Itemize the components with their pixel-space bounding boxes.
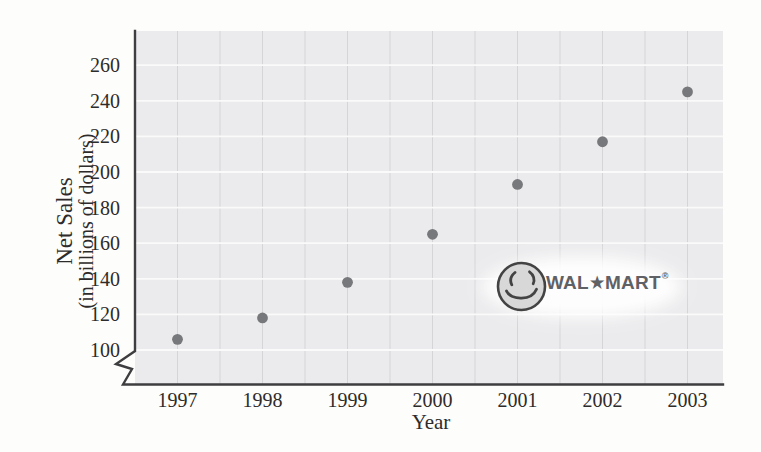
data-point-1997	[172, 334, 183, 345]
data-point-2001	[512, 179, 523, 190]
data-point-1999	[342, 277, 353, 288]
y-tick-label-200: 200	[50, 161, 120, 183]
walmart-smiley-icon	[498, 263, 545, 310]
smiley-face-circle	[498, 263, 545, 310]
data-point-2003	[682, 87, 693, 98]
y-tick-label-100: 100	[50, 339, 120, 361]
y-tick-label-140: 140	[50, 268, 120, 290]
data-point-2002	[597, 136, 608, 147]
data-point-1998	[257, 313, 268, 324]
x-tick-label-1997: 1997	[138, 389, 218, 411]
walmart-net-sales-scatter-chart: Net Sales (in billions of dollars) 10012…	[0, 0, 761, 452]
x-tick-label-2000: 2000	[393, 389, 473, 411]
x-tick-label-1998: 1998	[223, 389, 303, 411]
y-tick-label-260: 260	[50, 54, 120, 76]
x-tick-label-2001: 2001	[478, 389, 558, 411]
y-tick-label-180: 180	[50, 197, 120, 219]
logo-registered-mark: ®	[662, 271, 669, 281]
x-axis-title: Year	[386, 410, 476, 435]
logo-mart: MART	[605, 272, 661, 294]
x-tick-label-1999: 1999	[308, 389, 388, 411]
walmart-logo-text: WAL★MART®	[546, 268, 669, 298]
logo-wal: WAL	[546, 272, 589, 294]
x-tick-label-2002: 2002	[563, 389, 643, 411]
y-tick-label-220: 220	[50, 125, 120, 147]
y-tick-label-120: 120	[50, 303, 120, 325]
x-tick-label-2003: 2003	[648, 389, 728, 411]
y-tick-label-240: 240	[50, 90, 120, 112]
y-tick-label-160: 160	[50, 232, 120, 254]
data-point-2000	[427, 229, 438, 240]
logo-star-icon: ★	[589, 273, 605, 292]
